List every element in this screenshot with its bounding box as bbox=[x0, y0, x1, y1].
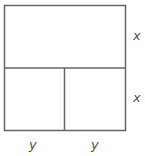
label-right-bottom: x bbox=[132, 90, 141, 105]
label-bottom-right: y bbox=[90, 137, 99, 152]
label-bottom-left: y bbox=[28, 137, 37, 152]
label-right-top: x bbox=[132, 28, 141, 43]
area-diagram: x x y y bbox=[0, 0, 145, 156]
